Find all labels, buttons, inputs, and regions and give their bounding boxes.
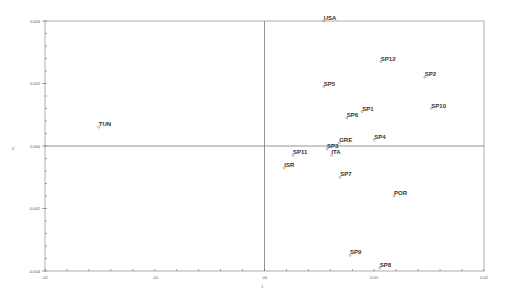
data-point-sp10: SP10 [430,103,446,110]
x-tick-label: 0.02 [480,275,489,280]
data-point-usa: USA [323,15,337,22]
data-point-sp11: SP11 [292,149,308,156]
point-label: SP5 [324,81,336,87]
point-label: ISR [284,162,295,168]
data-point-por: POR [393,190,408,197]
x-tick-label: -.01 [151,275,159,280]
data-points: USASP12SP2SP5SP1SP10SP6TUNSP4GRESP3SP11I… [98,15,447,269]
point-label: SP11 [293,149,308,155]
y-tick-label: 0.000 [30,144,41,149]
data-point-sp6: SP6 [346,112,359,119]
point-label: USA [324,15,337,21]
point-label: SP8 [380,262,392,268]
axes: .02-.01.000.010.020.0040.0020.000-0.002-… [29,19,489,281]
point-label: SP1 [362,106,374,112]
x-axis-label: 1 [261,284,264,289]
data-point-gre: GRE [338,137,352,144]
point-label: ITA [331,149,341,155]
point-label: SP3 [327,143,339,149]
y-tick-label: -0.004 [29,269,41,274]
data-point-sp5: SP5 [323,81,336,88]
x-tick-label: .00 [262,275,268,280]
x-tick-label: .02 [42,275,48,280]
point-label: SP2 [425,71,437,77]
data-point-ita: ITA [330,149,341,156]
y-axis-label: 2 [12,146,15,151]
y-tick-label: 0.002 [30,81,41,86]
data-point-sp7: SP7 [339,171,352,178]
point-label: POR [394,190,408,196]
data-point-isr: ISR [283,162,295,169]
point-label: TUN [99,121,111,127]
data-point-sp1: SP1 [361,106,374,113]
point-label: SP12 [381,56,396,62]
point-label: SP9 [350,249,362,255]
data-point-sp2: SP2 [424,71,437,78]
x-tick-label: 0.01 [370,275,379,280]
point-label: SP4 [374,134,386,140]
data-point-tun: TUN [98,121,111,128]
point-label: GRE [339,137,352,143]
y-tick-label: -0.002 [29,206,41,211]
point-label: SP10 [431,103,446,109]
point-label: SP7 [340,171,352,177]
data-point-sp8: SP8 [379,262,392,269]
data-point-sp12: SP12 [380,56,396,63]
scatter-chart: .02-.01.000.010.020.0040.0020.000-0.002-… [0,0,509,302]
data-point-sp4: SP4 [373,134,386,141]
y-tick-label: 0.004 [30,19,41,24]
data-point-sp9: SP9 [349,249,362,256]
point-label: SP6 [347,112,359,118]
